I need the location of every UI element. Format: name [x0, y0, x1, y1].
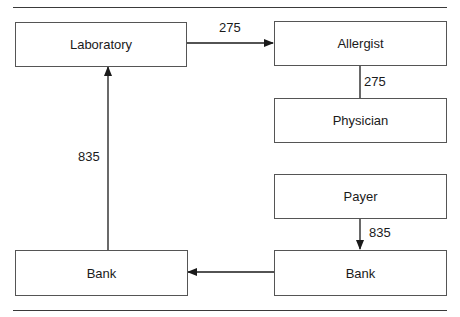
edge-label-bank-lab: 835 — [78, 150, 100, 164]
node-laboratory: Laboratory — [15, 22, 187, 67]
node-label: Allergist — [337, 36, 383, 51]
node-physician: Physician — [274, 98, 447, 143]
node-label: Physician — [333, 113, 389, 128]
node-bank-right: Bank — [274, 250, 447, 296]
node-label: Laboratory — [70, 37, 132, 52]
node-allergist: Allergist — [274, 21, 447, 66]
edge-label-allergist-physician: 275 — [364, 75, 386, 89]
node-label: Bank — [87, 266, 117, 281]
edge-label-lab-allergist: 275 — [219, 21, 241, 35]
node-label: Payer — [344, 189, 378, 204]
node-bank-left: Bank — [15, 250, 188, 296]
edge-label-payer-bank: 835 — [369, 226, 391, 240]
node-payer: Payer — [274, 174, 447, 219]
node-label: Bank — [346, 266, 376, 281]
